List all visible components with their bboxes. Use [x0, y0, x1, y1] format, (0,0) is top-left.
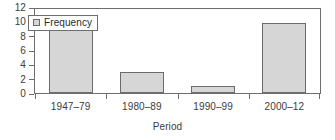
- y-axis-tick: 0: [20, 88, 34, 100]
- y-axis-tick-mark: [29, 36, 34, 37]
- x-axis-tick-label: 2000–12: [265, 101, 305, 112]
- x-axis: 1947–791980–891990–992000–12: [35, 94, 320, 116]
- legend: Frequency: [28, 15, 98, 31]
- bar-chart: 024681012 1947–791980–891990–992000–12 P…: [0, 0, 335, 140]
- y-axis-tick: 12: [15, 2, 34, 14]
- y-axis-tick-label: 2: [20, 74, 26, 86]
- y-axis-tick: 8: [20, 31, 34, 43]
- bar-slot: [249, 9, 320, 93]
- y-axis-tick-label: 10: [15, 16, 26, 28]
- x-axis-tick-label: 1990–99: [193, 101, 233, 112]
- bar-slot: [178, 9, 249, 93]
- y-axis-tick-mark: [29, 65, 34, 66]
- legend-swatch-icon: [33, 19, 40, 26]
- x-axis-tick-mark: [249, 94, 250, 99]
- y-axis-tick: 2: [20, 74, 34, 86]
- bar[interactable]: [120, 72, 164, 93]
- bar[interactable]: [262, 23, 306, 93]
- y-axis-tick-mark: [29, 8, 34, 9]
- x-axis-tick-mark: [319, 94, 320, 99]
- x-axis-tick-label: 1947–79: [51, 101, 91, 112]
- x-axis-tick-label: 1980–89: [122, 101, 162, 112]
- y-axis-tick-label: 12: [15, 2, 26, 14]
- bar[interactable]: [49, 30, 93, 93]
- x-axis-tick-mark: [35, 94, 36, 99]
- y-axis-tick-label: 8: [20, 31, 26, 43]
- y-axis-tick-label: 4: [20, 59, 26, 71]
- y-axis-tick-label: 0: [20, 88, 26, 100]
- bar[interactable]: [191, 86, 235, 93]
- y-axis-tick: 6: [20, 45, 34, 57]
- legend-label-frequency: Frequency: [44, 17, 92, 28]
- x-axis-title: Period: [0, 121, 335, 132]
- x-axis-tick-mark: [178, 94, 179, 99]
- y-axis-tick-label: 6: [20, 45, 26, 57]
- y-axis-tick: 4: [20, 59, 34, 71]
- y-axis-tick-mark: [29, 51, 34, 52]
- y-axis-tick-mark: [29, 94, 34, 95]
- bar-slot: [106, 9, 177, 93]
- x-axis-tick-mark: [106, 94, 107, 99]
- y-axis-tick-mark: [29, 79, 34, 80]
